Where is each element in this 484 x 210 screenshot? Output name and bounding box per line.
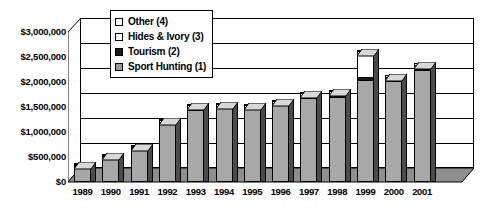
legend-item-label: Tourism (2) [128,46,180,57]
bar-front-face [187,104,204,183]
y-axis-label: $2,000,000 [0,76,66,87]
legend: Other (4)Hides & Ivory (3)Tourism (2)Spo… [110,10,213,78]
bar-top-face [74,156,97,164]
x-axis-label: 1994 [209,186,239,197]
x-axis-label: 2000 [379,186,409,197]
legend-item-label: Other (4) [128,16,168,27]
bar-1992[interactable] [159,119,176,182]
bar-front-face [300,92,317,182]
bar-top-face [272,93,295,101]
legend-item-label: Hides & Ivory (3) [128,31,204,42]
bar-top-face [244,97,267,105]
bar-front-face [244,104,261,183]
bar-segment [160,125,175,181]
bar-top-face [300,85,323,93]
legend-swatch-icon [115,48,123,56]
y-axis: $0$500,000$1,000,000$1,500,000$2,000,000… [0,0,66,210]
bar-top-face [357,43,380,51]
bar-1993[interactable] [187,104,204,183]
legend-item[interactable]: Other (4) [115,14,206,29]
x-axis-label: 1989 [68,186,98,197]
x-axis-label: 1999 [351,186,381,197]
bar-1991[interactable] [131,145,148,183]
bar-segment [103,158,118,181]
bar-top-face [216,96,239,104]
bar-top-face [102,147,125,155]
bar-segment [415,71,430,181]
y-axis-label: $1,000,000 [0,126,66,137]
legend-swatch-icon [115,33,123,41]
x-axis-label: 1997 [294,186,324,197]
legend-item[interactable]: Sport Hunting (1) [115,59,206,74]
x-axis-label: 1992 [152,186,182,197]
bar-front-face [385,75,402,182]
y-axis-label: $0 [0,176,66,187]
bar-1996[interactable] [272,100,289,183]
x-axis-label: 1991 [124,186,154,197]
y-axis-label: $500,000 [0,151,66,162]
legend-swatch-icon [115,63,123,71]
bar-segment [358,81,373,181]
legend-swatch-icon [115,18,123,26]
y-axis-label: $1,500,000 [0,101,66,112]
bar-segment [132,150,147,181]
bar-front-face [357,50,374,183]
bar-front-face [216,103,233,182]
bar-segment [188,111,203,181]
bar-top-face [385,68,408,76]
x-axis-label: 1995 [237,186,267,197]
x-axis: 1989199019911992199319941995199619971998… [68,186,474,204]
bar-front-face [414,63,431,182]
bar-1990[interactable] [102,154,119,182]
bar-2000[interactable] [385,75,402,182]
y-axis-label: $2,500,000 [0,51,66,62]
legend-item[interactable]: Tourism (2) [115,44,206,59]
bar-1999[interactable] [357,50,374,183]
bar-top-face [159,112,182,120]
x-axis-label: 1998 [322,186,352,197]
x-axis-label: 2001 [407,186,437,197]
bar-2001[interactable] [414,63,431,182]
bar-1997[interactable] [300,92,317,182]
x-axis-label: 1996 [266,186,296,197]
bar-1994[interactable] [216,103,233,182]
bar-top-face [187,97,210,105]
bar-front-face [272,100,289,183]
bar-1998[interactable] [329,90,346,183]
x-axis-label: 1993 [181,186,211,197]
bar-segment [330,98,345,181]
legend-item-label: Sport Hunting (1) [128,61,206,72]
y-axis-label: $3,000,000 [0,26,66,37]
legend-item[interactable]: Hides & Ivory (3) [115,29,206,44]
bar-segment [386,82,401,181]
bar-segment [273,106,288,181]
bar-top-face [414,56,437,64]
revenue-column-chart: $0$500,000$1,000,000$1,500,000$2,000,000… [0,0,484,210]
bar-segment [245,110,260,181]
bar-segment [301,99,316,181]
bar-segment [217,109,232,181]
bar-1995[interactable] [244,104,261,183]
x-axis-label: 1990 [96,186,126,197]
bar-top-face [131,138,154,146]
bar-top-face [329,83,352,91]
bar-front-face [159,119,176,182]
bar-1989[interactable] [74,163,91,182]
bar-front-face [329,90,346,183]
